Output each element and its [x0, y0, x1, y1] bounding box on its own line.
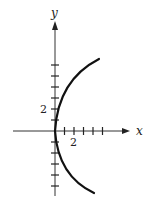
x-tick-label-2: 2 [70, 136, 77, 149]
x-axis-arrow-icon [122, 128, 130, 134]
parabola-figure: x y 2 2 [0, 0, 144, 208]
y-axis-arrow-icon [52, 21, 58, 30]
x-axis-label: x [136, 124, 143, 138]
y-axis-label: y [50, 6, 58, 20]
y-tick-label-2: 2 [40, 103, 47, 116]
chart-canvas: x y 2 2 [0, 0, 144, 208]
parabola-curve [55, 59, 99, 193]
